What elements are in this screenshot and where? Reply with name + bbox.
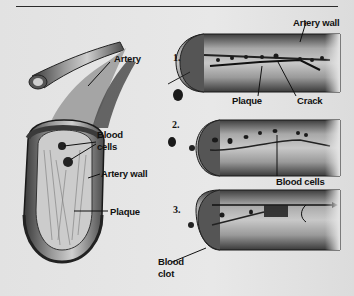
label-artery-wall-left: Artery wall: [101, 168, 147, 179]
label-blood-clot-line2: clot: [158, 268, 174, 279]
label-plaque-step1: Plaque: [232, 95, 262, 106]
label-blood-cells-line1: Blood: [97, 129, 123, 140]
label-artery-wall-step1: Artery wall: [293, 17, 339, 28]
label-blood-clot-line1: Blood: [158, 256, 184, 267]
diagram-page: Artery Blood cells Artery wall Plaque 1.…: [0, 0, 354, 296]
label-artery: Artery: [114, 53, 141, 64]
step-number-3: 3.: [173, 204, 181, 215]
artery-illustration: [0, 0, 354, 296]
step-number-1: 1.: [173, 52, 181, 63]
step-number-2: 2.: [172, 119, 180, 130]
segment-2-drawing: [168, 120, 340, 176]
label-plaque-left: Plaque: [110, 206, 140, 217]
label-blood-cells-line2: cells: [97, 141, 117, 152]
label-crack-step1: Crack: [297, 95, 322, 106]
segment-1-drawing: [168, 22, 340, 101]
label-blood-cells-step2: Blood cells: [276, 176, 324, 187]
segment-3-drawing: [172, 190, 340, 262]
left-artery-drawing: [24, 42, 136, 262]
